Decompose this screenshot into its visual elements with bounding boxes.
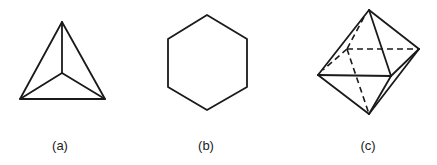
figure-label-c: (c)	[360, 138, 375, 153]
figure-b-hexagon	[168, 15, 247, 110]
figure-label-b: (b)	[198, 138, 214, 153]
figure-c-octahedron	[318, 10, 419, 114]
figure-label-a: (a)	[52, 138, 68, 153]
figure-a-tetrahedron	[20, 22, 105, 99]
